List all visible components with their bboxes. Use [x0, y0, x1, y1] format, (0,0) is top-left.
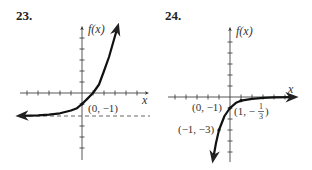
- problem-number-24: 24.: [165, 8, 181, 23]
- figure-canvas: 23.: [0, 0, 312, 170]
- svg-text:): ): [265, 105, 269, 118]
- y-axis-label: f(x): [236, 24, 253, 38]
- x-axis-label: x: [141, 93, 148, 107]
- x-axis-label: x: [287, 82, 294, 96]
- point-0-neg1: [80, 102, 83, 105]
- y-axis-label: f(x): [88, 22, 105, 36]
- point-neg1-neg3: [217, 128, 220, 131]
- point-label-0-neg1: (0, −1): [192, 101, 222, 114]
- point-1-neg-third: [239, 99, 242, 102]
- fraction-denominator: 3: [259, 112, 263, 121]
- point-0-neg1: [228, 106, 231, 109]
- graph-23: 23.: [16, 8, 150, 160]
- problem-number-23: 23.: [16, 8, 32, 23]
- point-label-1-neg-third: (1, − 1 3 ): [234, 102, 269, 121]
- point-label: (0, −1): [88, 102, 118, 115]
- point-label-neg1-neg3: (−1, −3): [178, 123, 215, 136]
- fraction-numerator: 1: [259, 102, 263, 111]
- svg-text:(1, −: (1, −: [234, 105, 255, 118]
- graph-24: 24.: [165, 8, 294, 162]
